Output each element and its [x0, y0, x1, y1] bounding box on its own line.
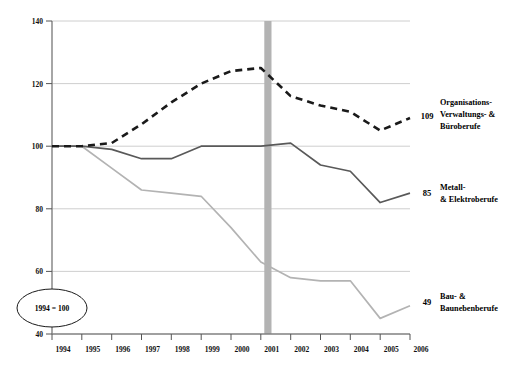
y-tick-label-40: 40	[36, 330, 44, 339]
end-value-organisations: 109	[421, 111, 434, 121]
x-tick-label-2002: 2002	[294, 345, 309, 354]
y-tick-label-100: 100	[32, 142, 44, 151]
x-tick-label-2000: 2000	[235, 345, 250, 354]
x-tick-label-1999: 1999	[205, 345, 220, 354]
legend: Organisations- Verwaltungs- & Büroberufe…	[440, 98, 498, 313]
legend-label-metall-line1: Metall-	[440, 183, 466, 192]
x-tick-label-2001: 2001	[264, 345, 279, 354]
base-year-note: 1994 = 100	[17, 289, 87, 327]
series-line-organisations-verwaltungs-bueroberufe	[52, 68, 410, 146]
series-lines	[52, 68, 410, 318]
y-tick-label-140: 140	[32, 17, 44, 26]
series-end-values: 109 85 49	[421, 111, 434, 307]
y-axis-ticks	[46, 21, 52, 334]
end-value-bau: 49	[423, 297, 432, 307]
series-line-metall-elektroberufe	[52, 143, 410, 202]
x-tick-label-1996: 1996	[115, 345, 130, 354]
legend-label-organisations-line1: Organisations-	[440, 98, 492, 107]
x-tick-label-1998: 1998	[175, 345, 190, 354]
line-chart: 140 120 100 80 60 40 1994 1995	[0, 0, 521, 375]
y-tick-label-120: 120	[32, 80, 44, 89]
x-axis-tick-labels: 1994 1995 1996 1997 1998 1999 2000 2001 …	[56, 345, 429, 354]
y-tick-label-80: 80	[36, 205, 44, 214]
x-tick-label-2004: 2004	[354, 345, 369, 354]
x-tick-label-1994: 1994	[56, 345, 71, 354]
x-tick-label-2006: 2006	[414, 345, 429, 354]
base-year-note-text: 1994 = 100	[35, 304, 70, 313]
legend-item-bau: Bau- & Baunebenberufe	[440, 292, 498, 313]
x-tick-label-1995: 1995	[85, 345, 100, 354]
series-line-bau-baunebenberufe	[52, 146, 410, 318]
x-axis-ticks	[52, 334, 410, 340]
x-tick-label-2005: 2005	[384, 345, 399, 354]
y-tick-label-60: 60	[36, 267, 44, 276]
chart-container: 140 120 100 80 60 40 1994 1995	[0, 0, 521, 375]
legend-item-organisations: Organisations- Verwaltungs- & Büroberufe	[440, 98, 496, 131]
legend-label-metall-line2: & Elektroberufe	[440, 195, 498, 204]
legend-label-organisations-line2: Verwaltungs- &	[440, 110, 496, 119]
highlight-band	[264, 21, 271, 334]
x-tick-label-2003: 2003	[324, 345, 339, 354]
legend-label-organisations-line3: Büroberufe	[440, 122, 481, 131]
legend-label-bau-line2: Baunebenberufe	[440, 304, 498, 313]
legend-label-bau-line1: Bau- &	[440, 292, 466, 301]
x-tick-label-1997: 1997	[145, 345, 160, 354]
end-value-metall: 85	[423, 188, 432, 198]
legend-item-metall: Metall- & Elektroberufe	[440, 183, 498, 204]
